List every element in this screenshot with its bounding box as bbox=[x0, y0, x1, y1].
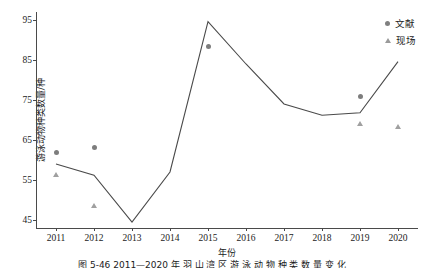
x-tick-mark bbox=[360, 228, 361, 231]
data-point-triangle bbox=[395, 124, 401, 129]
x-tick-mark bbox=[246, 228, 247, 231]
x-tick-label: 2012 bbox=[85, 233, 104, 243]
x-tick-label: 2020 bbox=[389, 233, 408, 243]
x-tick-label: 2018 bbox=[313, 233, 332, 243]
data-point-circle bbox=[92, 145, 97, 150]
legend-item-xianchang: 现场 bbox=[385, 33, 416, 47]
y-tick-label: 85 bbox=[23, 55, 33, 65]
data-point-triangle bbox=[91, 203, 97, 208]
y-tick-mark bbox=[33, 100, 36, 101]
data-point-triangle bbox=[357, 121, 363, 126]
x-tick-label: 2017 bbox=[275, 233, 294, 243]
x-tick-label: 2016 bbox=[237, 233, 256, 243]
x-tick-mark bbox=[284, 228, 285, 231]
y-tick-mark bbox=[33, 220, 36, 221]
y-tick-mark bbox=[33, 20, 36, 21]
data-point-circle bbox=[54, 150, 59, 155]
triangle-marker-icon bbox=[385, 38, 391, 43]
legend-label-wenxian: 文献 bbox=[395, 16, 415, 30]
x-tick-mark bbox=[322, 228, 323, 231]
y-tick-label: 75 bbox=[23, 95, 33, 105]
y-tick-mark bbox=[33, 180, 36, 181]
legend-item-wenxian: 文献 bbox=[385, 16, 416, 30]
data-point-circle bbox=[206, 44, 211, 49]
x-tick-label: 2013 bbox=[123, 233, 142, 243]
y-axis-label-container: 游泳动物种类数量/种 bbox=[0, 12, 14, 228]
data-point-circle bbox=[358, 94, 363, 99]
figure-caption: 图 5-46 2011—2020 年 羽 山 湾 区 游 泳 动 物 种 类 数… bbox=[0, 258, 424, 268]
x-tick-mark bbox=[208, 228, 209, 231]
chart-legend: 文献 现场 bbox=[385, 16, 416, 47]
y-tick-mark bbox=[33, 60, 36, 61]
x-tick-label: 2011 bbox=[47, 233, 66, 243]
legend-label-xianchang: 现场 bbox=[396, 33, 416, 47]
x-tick-mark bbox=[56, 228, 57, 231]
data-point-triangle bbox=[53, 172, 59, 177]
y-tick-label: 65 bbox=[23, 135, 33, 145]
x-tick-mark bbox=[94, 228, 95, 231]
y-tick-mark bbox=[33, 140, 36, 141]
trend-line bbox=[36, 12, 418, 228]
chart-figure: 游泳动物种类数量/种 455565758595 2011201220132014… bbox=[0, 0, 424, 268]
x-tick-mark bbox=[398, 228, 399, 231]
plot-area: 455565758595 201120122013201420152016201… bbox=[36, 12, 418, 228]
x-tick-label: 2019 bbox=[351, 233, 370, 243]
circle-marker-icon bbox=[385, 21, 390, 26]
x-tick-label: 2015 bbox=[199, 233, 218, 243]
x-tick-mark bbox=[132, 228, 133, 231]
x-tick-mark bbox=[170, 228, 171, 231]
y-tick-label: 45 bbox=[23, 215, 33, 225]
y-tick-label: 95 bbox=[23, 15, 33, 25]
y-tick-label: 55 bbox=[23, 175, 33, 185]
x-tick-label: 2014 bbox=[161, 233, 180, 243]
